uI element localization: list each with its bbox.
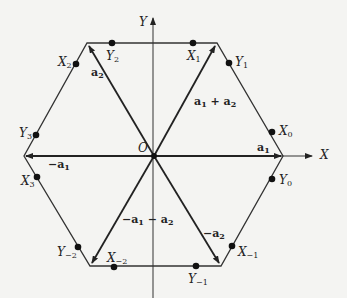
vector-a1-plus-a2-label: a1 + a2 — [194, 96, 236, 108]
point-Y0 — [269, 176, 276, 183]
point-X1 — [190, 40, 197, 47]
point-X1-label: X1 — [187, 50, 201, 64]
point-X2-label: X2 — [58, 56, 72, 70]
point-Y-1-label: Y−1 — [188, 273, 208, 287]
origin-point — [151, 153, 157, 159]
point-X2 — [73, 61, 80, 68]
point-X-1-label: X−1 — [238, 246, 258, 260]
y-axis-label: Y — [139, 16, 147, 28]
vector-neg-a1-label: −a1 — [48, 159, 70, 171]
point-Y1 — [226, 60, 233, 67]
point-X-1 — [229, 243, 236, 250]
vector-a2-label: a2 — [91, 67, 104, 79]
point-Y3 — [33, 132, 40, 139]
diagram-graphic — [0, 0, 347, 298]
point-Y-1 — [193, 263, 200, 270]
vector-neg-a2-label: −a2 — [203, 228, 225, 240]
vector-neg-a2 — [154, 156, 219, 263]
point-X3-label: X3 — [21, 175, 35, 189]
point-Y2 — [109, 40, 116, 47]
point-X3 — [34, 174, 41, 181]
vector-a1-label: a1 — [257, 142, 270, 154]
point-Y0-label: Y0 — [279, 174, 292, 188]
hexagon-lattice-diagram: Y X O a1 a2 a1 + a2 −a1 −a2 −a1 − a2 X0 … — [0, 0, 347, 298]
vector-neg-a1-minus-a2-label: −a1 − a2 — [122, 214, 174, 226]
x-axis-label: X — [320, 149, 329, 161]
point-Y2-label: Y2 — [106, 50, 119, 64]
point-X-2-label: X−2 — [107, 252, 127, 266]
point-Y1-label: Y1 — [235, 56, 248, 70]
point-X0 — [269, 129, 276, 136]
vector-neg-a1-minus-a2 — [92, 156, 154, 263]
point-X0-label: X0 — [279, 125, 293, 139]
point-Y-2-label: Y−2 — [57, 246, 77, 260]
vector-a2 — [89, 46, 154, 156]
point-Y3-label: Y3 — [19, 127, 32, 141]
origin-label: O — [138, 142, 148, 154]
